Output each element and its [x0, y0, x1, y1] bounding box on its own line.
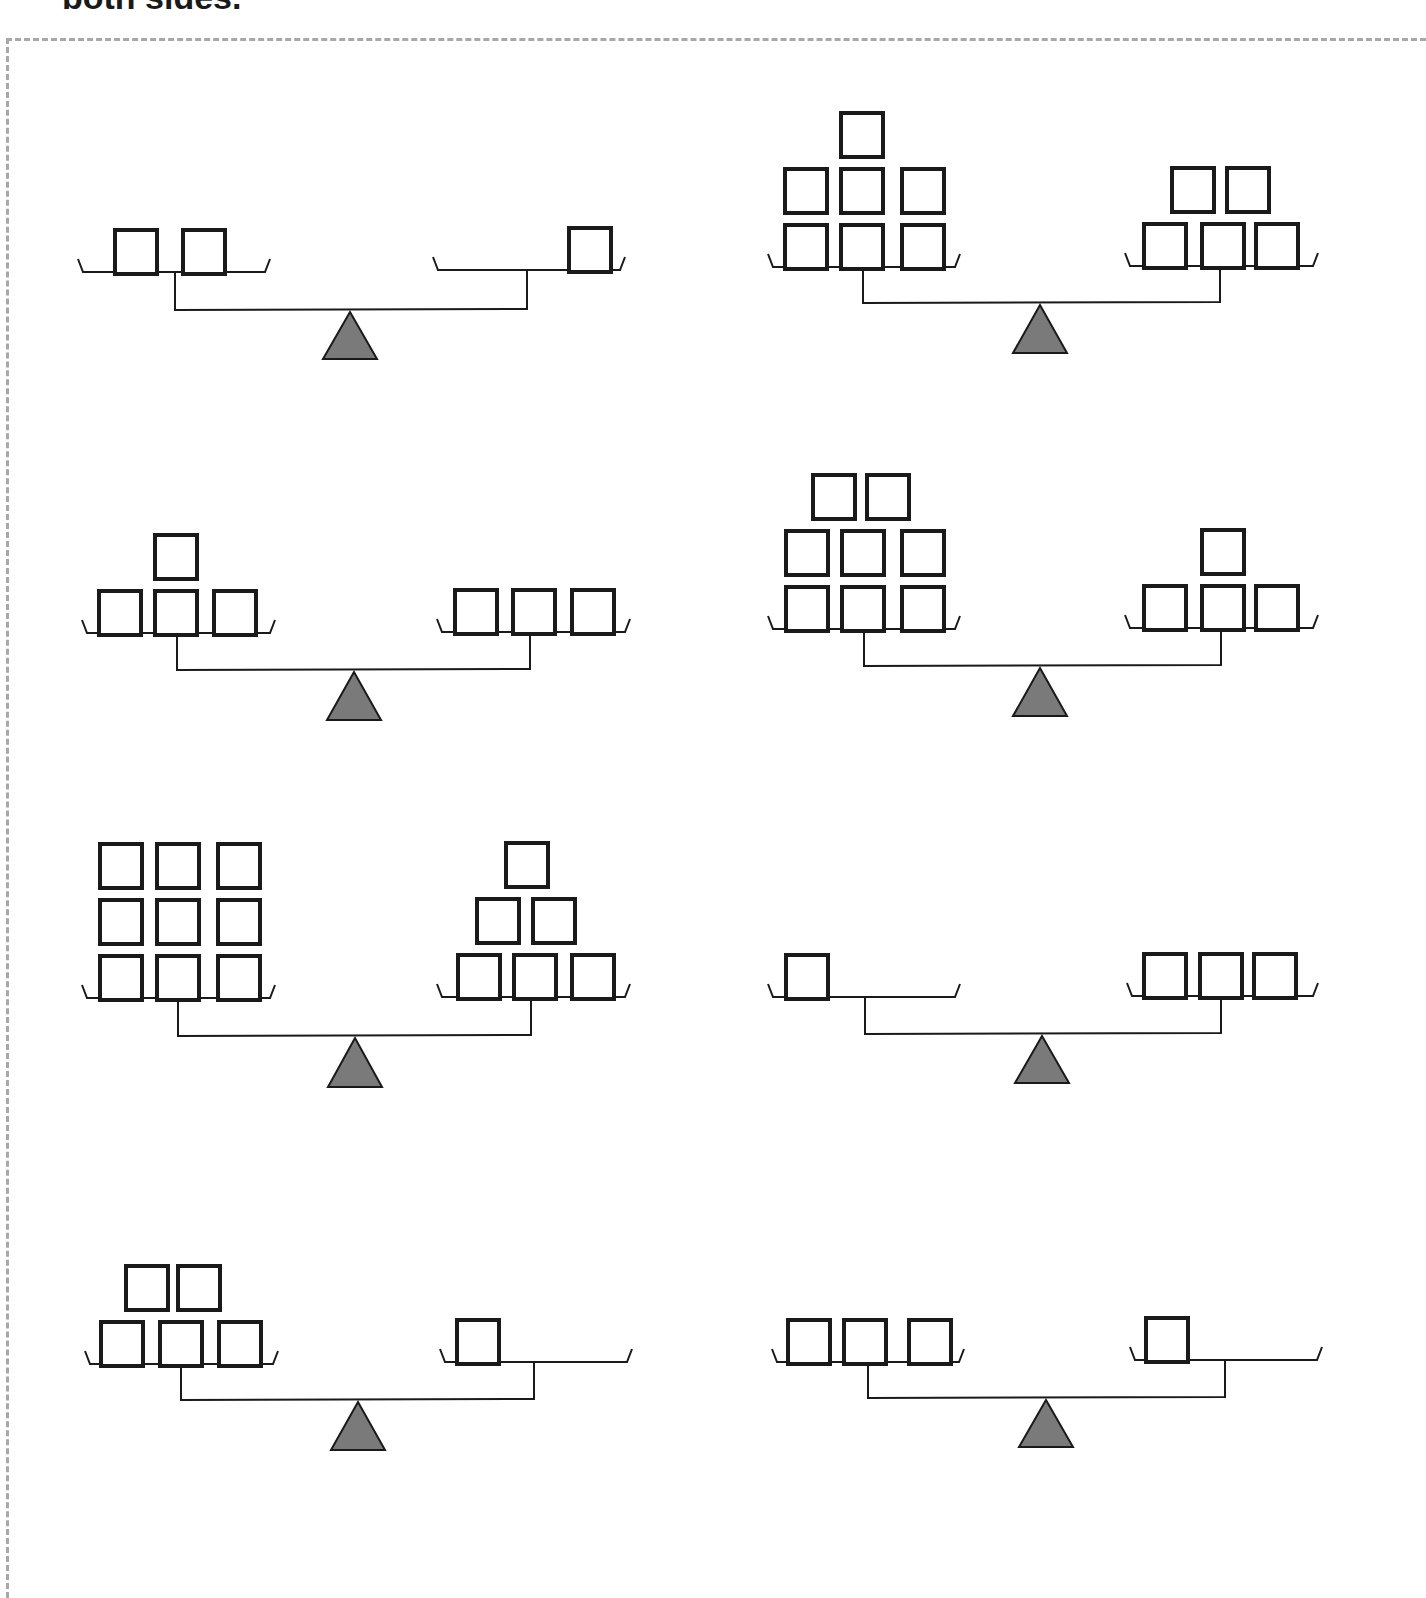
left-weight-block: [155, 591, 197, 635]
balance-scale-8: [772, 1318, 1322, 1447]
right-weight-block: [572, 590, 614, 634]
left-weight-block: [160, 1322, 202, 1366]
right-weight-block: [572, 955, 614, 999]
left-weight-block: [902, 169, 944, 213]
balance-scale-4: [768, 475, 1318, 716]
left-weight-block: [99, 591, 141, 635]
right-weight-block: [1144, 954, 1186, 998]
right-weight-block: [1227, 168, 1269, 212]
balance-scale-3: [82, 535, 630, 720]
balance-scale-7: [85, 1266, 632, 1450]
balance-scale-5: [82, 843, 630, 1087]
left-weight-block: [813, 475, 855, 519]
left-weight-block: [842, 531, 884, 575]
left-weight-block: [909, 1320, 951, 1364]
scale-beam: [178, 997, 531, 1036]
left-pan: [78, 259, 270, 272]
right-weight-block: [569, 228, 611, 272]
balance-scale-6: [768, 954, 1318, 1083]
right-weight-block: [1200, 954, 1242, 998]
right-weight-block: [1202, 530, 1244, 574]
left-weight-block: [126, 1266, 168, 1310]
left-weight-block: [157, 900, 199, 944]
right-weight-block: [1146, 1318, 1188, 1362]
left-weight-block: [842, 587, 884, 631]
right-weight-block: [533, 899, 575, 943]
right-weight-block: [513, 590, 555, 634]
scale-beam: [864, 628, 1221, 666]
left-weight-block: [219, 1322, 261, 1366]
left-weight-block: [786, 955, 828, 999]
right-weight-block: [506, 843, 548, 887]
left-weight-block: [218, 900, 260, 944]
fulcrum-triangle-icon: [328, 1038, 382, 1087]
left-weight-block: [902, 531, 944, 575]
left-weight-block: [841, 113, 883, 157]
fulcrum-triangle-icon: [1013, 305, 1067, 353]
left-weight-block: [178, 1266, 220, 1310]
right-weight-block: [1202, 224, 1244, 268]
left-weight-block: [844, 1320, 886, 1364]
right-weight-block: [1254, 954, 1296, 998]
right-weight-block: [1144, 224, 1186, 268]
left-weight-block: [155, 535, 197, 579]
left-weight-block: [101, 1322, 143, 1366]
right-weight-block: [1202, 586, 1244, 630]
left-weight-block: [785, 169, 827, 213]
scale-beam: [865, 996, 1221, 1034]
left-weight-block: [902, 225, 944, 269]
left-weight-block: [183, 230, 225, 274]
left-weight-block: [100, 844, 142, 888]
scale-beam: [863, 266, 1220, 303]
fulcrum-triangle-icon: [331, 1402, 385, 1450]
balance-scale-2: [768, 113, 1318, 353]
scale-beam: [175, 270, 527, 310]
left-weight-block: [786, 531, 828, 575]
left-weight-block: [100, 900, 142, 944]
fulcrum-triangle-icon: [1015, 1036, 1069, 1083]
left-weight-block: [902, 587, 944, 631]
right-weight-block: [458, 955, 500, 999]
left-weight-block: [786, 587, 828, 631]
left-weight-block: [115, 230, 157, 274]
left-weight-block: [214, 591, 256, 635]
right-weight-block: [1256, 586, 1298, 630]
left-weight-block: [788, 1320, 830, 1364]
left-weight-block: [157, 956, 199, 1000]
right-weight-block: [457, 1320, 499, 1364]
left-weight-block: [157, 844, 199, 888]
fulcrum-triangle-icon: [327, 672, 381, 720]
left-weight-block: [841, 169, 883, 213]
left-weight-block: [785, 225, 827, 269]
right-weight-block: [1144, 586, 1186, 630]
right-weight-block: [514, 955, 556, 999]
fulcrum-triangle-icon: [1019, 1400, 1073, 1447]
left-weight-block: [841, 225, 883, 269]
balance-scale-1: [78, 228, 625, 359]
right-weight-block: [477, 899, 519, 943]
left-weight-block: [100, 956, 142, 1000]
fulcrum-triangle-icon: [323, 312, 377, 359]
scale-beam: [177, 632, 530, 670]
fulcrum-triangle-icon: [1013, 668, 1067, 716]
left-weight-block: [218, 844, 260, 888]
left-weight-block: [867, 475, 909, 519]
right-weight-block: [1172, 168, 1214, 212]
right-weight-block: [1256, 224, 1298, 268]
left-weight-block: [218, 956, 260, 1000]
right-weight-block: [455, 590, 497, 634]
